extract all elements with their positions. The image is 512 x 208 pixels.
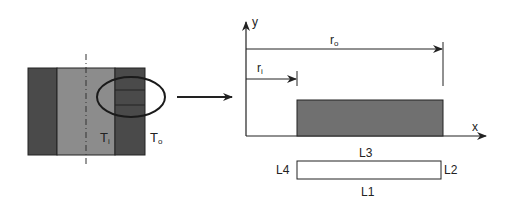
- outer-wall-right: [115, 68, 145, 155]
- cylinder-section: Ti To: [28, 54, 165, 166]
- boundary-left-label: L4: [276, 163, 290, 177]
- boundary-bottom-label: L1: [361, 185, 375, 199]
- inner-radius-label: ri: [257, 61, 263, 76]
- diagram-canvas: Ti To y x ro ri L3 L2 L1 L4: [0, 0, 512, 208]
- boundary-rect: [297, 161, 441, 179]
- x-axis-label: x: [472, 120, 478, 134]
- axisymmetric-domain: y x ro ri: [246, 15, 486, 136]
- outer-radius-label: ro: [330, 33, 339, 48]
- outer-temperature-label: To: [150, 130, 163, 146]
- y-axis-label: y: [252, 15, 258, 29]
- outer-wall-left: [28, 68, 57, 155]
- boundary-top-label: L3: [359, 146, 373, 160]
- boundary-right-label: L2: [444, 163, 458, 177]
- boundary-diagram: L3 L2 L1 L4: [276, 146, 458, 199]
- wall-region: [297, 100, 443, 136]
